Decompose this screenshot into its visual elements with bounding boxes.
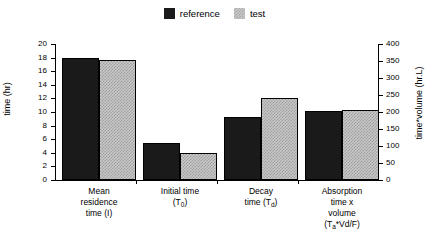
left-ticklabel-0: 0 [43, 176, 47, 184]
cat1-subscript: 0 [181, 201, 185, 208]
left-tick-4 [51, 153, 55, 154]
right-ticklabel-250: 250 [386, 91, 399, 99]
category-label-line-1: Decay [216, 186, 306, 197]
right-tick-250 [379, 95, 383, 96]
right-tick-350 [379, 61, 383, 62]
cat3-subscript: a [332, 223, 336, 230]
left-ticklabel-18: 18 [38, 54, 47, 62]
right-tick-150 [379, 129, 383, 130]
cat2-subscript: d [271, 201, 275, 208]
bar-group-initial-time [143, 44, 217, 180]
category-label-line-4: (Ta*Vd/F) [297, 219, 387, 230]
cat3-paren-open: (T [324, 219, 332, 229]
cat1-paren-close: ) [184, 197, 187, 207]
right-ticklabel-400: 400 [386, 40, 399, 48]
left-ticklabel-2: 2 [43, 162, 47, 170]
right-tick-100 [379, 146, 383, 147]
left-tick-14 [51, 85, 55, 86]
right-tick-300 [379, 78, 383, 79]
category-label-line-1: Mean [54, 186, 144, 197]
bar-test-mean-residence-time [99, 60, 136, 180]
left-ticklabel-12: 12 [38, 94, 47, 102]
category-label-absorption-time-volume: Absorption time x volume (Ta*Vd/F) [297, 186, 387, 230]
bar-test-decay-time [261, 98, 298, 180]
bar-reference-absorption-time-volume [305, 111, 342, 180]
left-ticklabel-10: 10 [38, 108, 47, 116]
right-ticklabel-200: 200 [386, 108, 399, 116]
right-ticklabel-300: 300 [386, 74, 399, 82]
bar-chart: 20 18 16 14 12 10 8 6 4 2 0 400 350 300 … [0, 0, 429, 241]
category-label-line-3: time (I) [54, 208, 144, 219]
right-tick-200 [379, 112, 383, 113]
right-tick-400 [379, 44, 383, 45]
left-ticklabel-16: 16 [38, 67, 47, 75]
left-tick-6 [51, 139, 55, 140]
right-ticklabel-100: 100 [386, 142, 399, 150]
left-tick-20 [51, 44, 55, 45]
right-axis-title: time*volume (hr.L) [414, 58, 424, 148]
category-label-initial-time: Initial time (T0) [135, 186, 225, 208]
right-ticklabel-50: 50 [386, 159, 395, 167]
left-ticklabel-6: 6 [43, 135, 47, 143]
category-label-line-1: Absorption [297, 186, 387, 197]
category-label-mean-residence-time: Mean residence time (I) [54, 186, 144, 219]
cat2-paren-close: ) [275, 197, 278, 207]
right-ticklabel-0: 0 [386, 176, 390, 184]
bar-test-absorption-time-volume [342, 110, 379, 180]
category-label-line-1: Initial time [135, 186, 225, 197]
left-tick-12 [51, 98, 55, 99]
bar-reference-decay-time [224, 117, 261, 180]
bar-group-decay-time [224, 44, 298, 180]
cat3-formula-tail: *Vd/F) [336, 219, 360, 229]
bar-test-initial-time [180, 153, 217, 180]
category-label-line-2: time x [297, 197, 387, 208]
left-tick-16 [51, 71, 55, 72]
bar-group-mean-residence-time [62, 44, 136, 180]
left-ticklabel-4: 4 [43, 149, 47, 157]
right-ticklabel-150: 150 [386, 125, 399, 133]
category-separator-2 [217, 180, 218, 184]
bar-reference-mean-residence-time [62, 58, 99, 180]
plot-area [56, 44, 378, 180]
category-label-line-2: time (Td) [216, 197, 306, 208]
left-tick-8 [51, 126, 55, 127]
left-tick-2 [51, 166, 55, 167]
category-separator-1 [136, 180, 137, 184]
category-label-decay-time: Decay time (Td) [216, 186, 306, 208]
category-separator-3 [298, 180, 299, 184]
right-tick-50 [379, 163, 383, 164]
bar-group-absorption-time-volume [305, 44, 379, 180]
right-tick-0 [379, 180, 383, 181]
left-ticklabel-14: 14 [38, 81, 47, 89]
cat1-paren-open: (T [173, 197, 181, 207]
category-label-line-2: (T0) [135, 197, 225, 208]
category-label-line-3: volume [297, 208, 387, 219]
cat2-paren-open: time (T [245, 197, 271, 207]
left-tick-18 [51, 58, 55, 59]
category-label-line-2: residence [54, 197, 144, 208]
bar-reference-initial-time [143, 143, 180, 180]
left-tick-0 [51, 180, 55, 181]
left-axis-title: time (hr) [2, 64, 12, 134]
left-tick-10 [51, 112, 55, 113]
right-ticklabel-350: 350 [386, 57, 399, 65]
left-ticklabel-20: 20 [38, 40, 47, 48]
left-ticklabel-8: 8 [43, 122, 47, 130]
